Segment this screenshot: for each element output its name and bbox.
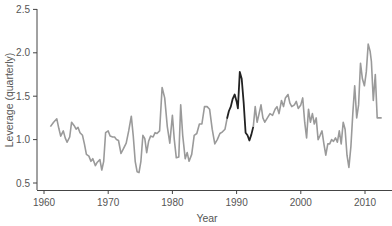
- x-tick-label: 1960: [33, 197, 56, 208]
- leverage-line-chart: 0.51.01.52.02.5 196019701980199020002010…: [0, 0, 392, 226]
- y-tick-label: 2.0: [16, 47, 30, 58]
- x-tick-label: 2010: [354, 197, 377, 208]
- x-axis: 196019701980199020002010: [33, 190, 392, 208]
- y-ticks: 0.51.01.52.02.5: [16, 4, 37, 189]
- x-tick-label: 1990: [225, 197, 248, 208]
- y-axis-label: Leverage (quarterly): [3, 53, 15, 148]
- x-tick-label: 2000: [290, 197, 313, 208]
- y-tick-label: 1.0: [16, 134, 30, 145]
- series-line: [50, 88, 227, 173]
- x-tick-label: 1980: [161, 197, 184, 208]
- series-lines: [50, 44, 381, 173]
- y-tick-label: 2.5: [16, 4, 30, 15]
- x-tick-label: 1970: [97, 197, 120, 208]
- y-axis: 0.51.01.52.02.5: [16, 4, 37, 190]
- series-line: [253, 44, 381, 167]
- highlighted-series-line: [227, 72, 253, 141]
- x-axis-label: Year: [196, 212, 218, 224]
- y-tick-label: 1.5: [16, 91, 30, 102]
- x-ticks: 196019701980199020002010: [33, 190, 377, 208]
- y-tick-label: 0.5: [16, 178, 30, 189]
